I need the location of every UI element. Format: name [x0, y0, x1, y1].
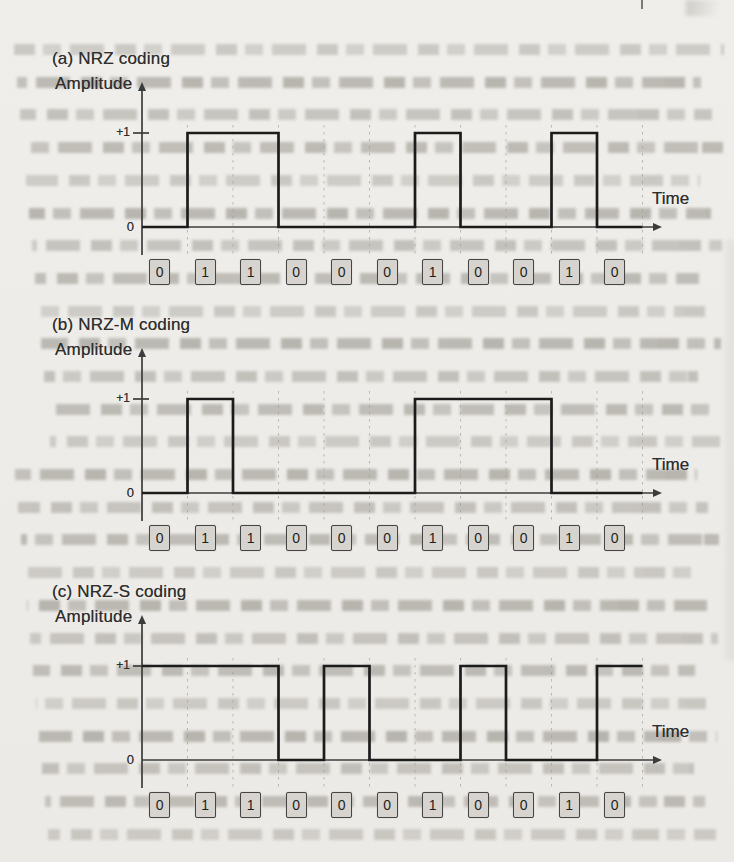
bit-value: 0	[156, 797, 164, 813]
bit-box: 1	[240, 525, 261, 551]
bit-sequence-row: 01100010010	[0, 43, 734, 313]
bit-sequence-row: 01100010010	[0, 576, 734, 846]
bit-value: 1	[247, 530, 255, 546]
bit-box: 0	[468, 259, 489, 285]
bit-value: 1	[565, 264, 573, 280]
bit-box: 1	[559, 259, 580, 285]
bit-value: 0	[383, 264, 391, 280]
bit-box: 1	[422, 525, 443, 551]
bit-box: 0	[513, 792, 534, 818]
bit-value: 0	[474, 530, 482, 546]
bit-box: 1	[422, 259, 443, 285]
bit-box: 0	[513, 259, 534, 285]
bit-box: 0	[149, 525, 170, 551]
bit-value: 0	[292, 264, 300, 280]
bit-box: 0	[513, 525, 534, 551]
bit-box: 1	[240, 259, 261, 285]
bit-box: 1	[195, 525, 216, 551]
scan-artifact-corner-shadow	[686, 0, 734, 16]
bit-value: 0	[611, 264, 619, 280]
bit-value: 0	[156, 264, 164, 280]
scan-artifact-edge-shadow	[722, 240, 734, 660]
bit-box: 0	[377, 525, 398, 551]
bit-box: 0	[377, 792, 398, 818]
bit-box: 0	[604, 259, 625, 285]
bit-box: 1	[240, 792, 261, 818]
bit-value: 0	[156, 530, 164, 546]
bit-box: 0	[286, 792, 307, 818]
bit-value: 0	[338, 264, 346, 280]
bit-box: 1	[195, 259, 216, 285]
bit-box: 1	[559, 792, 580, 818]
bit-value: 0	[520, 530, 528, 546]
bit-value: 0	[383, 530, 391, 546]
bit-box: 0	[604, 525, 625, 551]
bit-value: 0	[520, 264, 528, 280]
bit-box: 0	[377, 259, 398, 285]
bit-value: 1	[429, 530, 437, 546]
chart-nrz-m-coding: (b) NRZ-M coding Amplitude +1 0 Time 011…	[0, 309, 734, 579]
bit-value: 0	[383, 797, 391, 813]
bit-box: 0	[331, 259, 352, 285]
bit-sequence-row: 01100010010	[0, 309, 734, 579]
bit-box: 0	[286, 525, 307, 551]
bit-box: 0	[149, 792, 170, 818]
bit-value: 1	[565, 797, 573, 813]
bit-value: 0	[520, 797, 528, 813]
bit-box: 0	[149, 259, 170, 285]
bit-value: 0	[292, 530, 300, 546]
bit-box: 0	[468, 525, 489, 551]
bit-value: 0	[474, 797, 482, 813]
bit-value: 1	[247, 264, 255, 280]
bit-value: 0	[611, 530, 619, 546]
bit-value: 1	[429, 797, 437, 813]
bit-box: 0	[604, 792, 625, 818]
chart-nrz-coding: (a) NRZ coding Amplitude +1 0 Time 01100…	[0, 43, 734, 313]
bit-value: 0	[338, 797, 346, 813]
bit-value: 1	[201, 797, 209, 813]
bit-box: 0	[331, 792, 352, 818]
bit-value: 1	[247, 797, 255, 813]
bit-box: 0	[331, 525, 352, 551]
bit-box: 1	[559, 525, 580, 551]
bit-value: 0	[474, 264, 482, 280]
scan-artifact-tick	[641, 0, 643, 9]
scanned-page: (a) NRZ coding Amplitude +1 0 Time 01100…	[0, 0, 734, 862]
bit-box: 1	[422, 792, 443, 818]
bit-value: 1	[565, 530, 573, 546]
bit-value: 1	[201, 264, 209, 280]
bit-box: 0	[286, 259, 307, 285]
bit-value: 0	[292, 797, 300, 813]
bit-box: 1	[195, 792, 216, 818]
bit-value: 0	[611, 797, 619, 813]
bit-value: 1	[429, 264, 437, 280]
chart-nrz-s-coding: (c) NRZ-S coding Amplitude +1 0 Time 011…	[0, 576, 734, 846]
bit-value: 1	[201, 530, 209, 546]
bit-value: 0	[338, 530, 346, 546]
bit-box: 0	[468, 792, 489, 818]
